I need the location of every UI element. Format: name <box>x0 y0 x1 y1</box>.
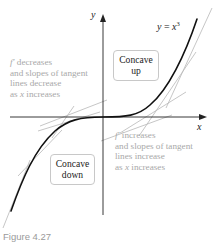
x-axis-label: x <box>197 121 201 132</box>
concave-down-line1: Concave <box>51 158 94 169</box>
right-annotation: f′ increases and slopes of tangent lines… <box>115 130 193 172</box>
concave-down-line2: down <box>51 169 94 180</box>
figure-caption: Figure 4.27 <box>3 231 51 242</box>
axes <box>10 14 207 215</box>
plot-canvas <box>0 0 216 245</box>
left-annotation-line4: as x increases <box>10 89 88 100</box>
right-annotation-line3: lines increase <box>115 151 193 162</box>
left-annotation: f′ decreases and slopes of tangent lines… <box>10 57 88 99</box>
right-annotation-line4: as x increases <box>115 162 193 173</box>
cubic-curve <box>11 19 197 211</box>
concave-down-box: Concave down <box>50 154 95 185</box>
concave-up-line2: up <box>114 65 158 76</box>
equation-exponent: 3 <box>177 20 180 27</box>
tangent-line <box>120 92 186 133</box>
tangent-lines <box>3 8 212 228</box>
y-axis-arrowhead <box>100 14 106 22</box>
right-annotation-line2: and slopes of tangent <box>115 141 193 152</box>
y-axis-label: y <box>91 9 95 20</box>
equation-equals: = <box>161 21 172 32</box>
figure-4-27: y x y = x3 Concave up Concave down f′ de… <box>0 0 216 245</box>
concave-up-box: Concave up <box>113 50 159 81</box>
concave-up-line1: Concave <box>114 54 158 65</box>
right-annotation-line1: f′ increases <box>115 130 193 141</box>
equation-label: y = x3 <box>157 20 180 32</box>
left-annotation-line2: and slopes of tangent <box>10 68 88 79</box>
left-annotation-line1: f′ decreases <box>10 57 88 68</box>
left-annotation-line3: lines decrease <box>10 78 88 89</box>
x-axis-arrowhead <box>199 114 207 120</box>
